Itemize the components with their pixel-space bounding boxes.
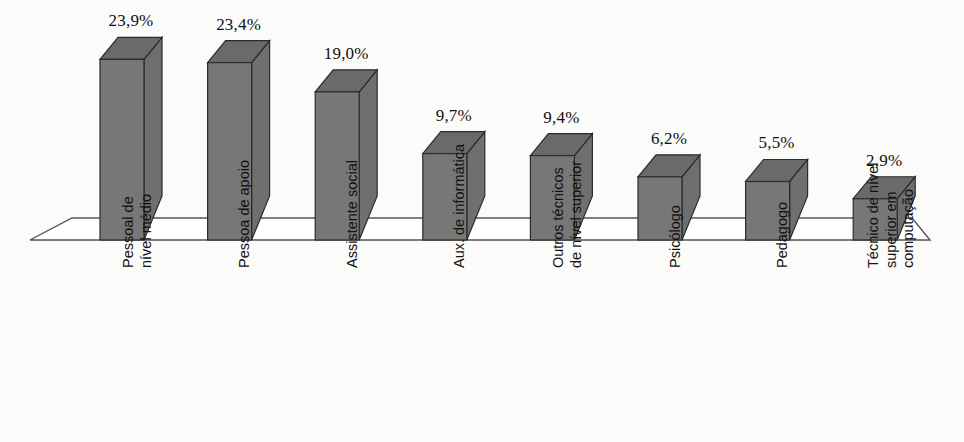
category-label: Psicólogo	[667, 205, 685, 268]
category-label: Assistente social	[344, 160, 362, 268]
category-label: Pessoa de apoio	[236, 160, 254, 268]
bar-value-label: 19,0%	[324, 44, 369, 64]
bar-value-label: 6,2%	[651, 129, 687, 149]
category-label: Outros técnicosde nível superior	[550, 161, 585, 268]
bar-value-label: 5,5%	[758, 133, 794, 153]
bar-value-label: 23,4%	[216, 15, 261, 35]
bar-value-label: 9,4%	[543, 108, 579, 128]
bar-chart-3d: 23,9%23,4%19,0%9,7%9,4%6,2%5,5%2,9% Pess…	[0, 0, 964, 442]
category-label: Técnico de nívelsuperior emcomputação	[865, 162, 918, 268]
category-label: Pessoal denível médio	[120, 194, 155, 268]
bar-value-label: 9,7%	[436, 106, 472, 126]
bar-value-label: 23,9%	[109, 11, 154, 31]
category-label: Aux. de informática	[451, 144, 469, 268]
category-label: Pedagogo	[774, 202, 792, 268]
